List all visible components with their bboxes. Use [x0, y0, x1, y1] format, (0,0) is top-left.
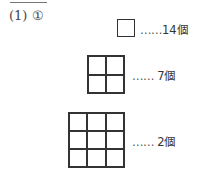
grid-cell — [88, 75, 106, 94]
count-3x3: …… 2個 — [132, 133, 175, 149]
grid-cell — [106, 113, 124, 131]
grid-cell — [118, 20, 134, 36]
grid-cell — [87, 149, 105, 167]
square-3x3 — [68, 112, 125, 168]
grid-cell — [106, 131, 124, 149]
count-value: 2個 — [157, 135, 175, 149]
leader-dots: …… — [132, 135, 157, 149]
grid-cell — [88, 56, 106, 75]
top-rule — [10, 2, 47, 3]
count-1x1: ……14個 — [140, 21, 188, 37]
grid-cell — [106, 75, 124, 94]
count-value: 14個 — [162, 23, 188, 37]
grid-cell — [106, 56, 124, 75]
leader-dots: …… — [132, 69, 157, 83]
grid-cell — [69, 113, 87, 131]
square-1x1 — [117, 19, 135, 37]
count-2x2: …… 7個 — [132, 67, 175, 83]
count-value: 7個 — [157, 69, 175, 83]
grid-cell — [106, 149, 124, 167]
problem-label: (1) ① — [9, 8, 44, 23]
leader-dots: …… — [140, 23, 162, 37]
grid-cell — [69, 149, 87, 167]
grid-cell — [87, 113, 105, 131]
grid-cell — [87, 131, 105, 149]
grid-cell — [69, 131, 87, 149]
square-2x2 — [87, 55, 125, 94]
